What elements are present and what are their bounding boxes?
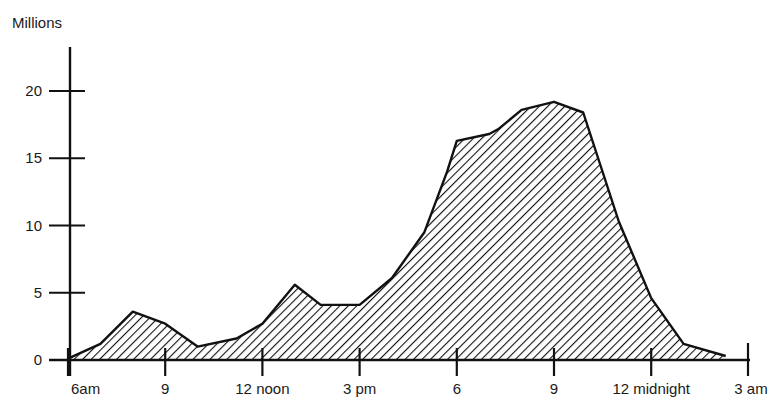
y-tick-label: 15 [25,149,42,166]
x-tick-label: 12 midnight [612,380,690,397]
y-ticks: 05101520 [25,82,85,368]
area-layer [68,102,726,360]
area-fill [68,102,726,360]
x-tick-label: 9 [550,380,558,397]
x-tick-label: 6 [453,380,461,397]
y-axis-title: Millions [12,14,62,31]
x-tick-label: 12 noon [235,380,289,397]
y-tick-label: 20 [25,82,42,99]
x-tick-label: 9 [161,380,169,397]
x-tick-label: 3 am [734,380,767,397]
area-chart: Millions 05101520 6am912 noon3 pm6912 mi… [0,0,784,419]
y-tick-label: 0 [34,351,42,368]
y-tick-label: 10 [25,217,42,234]
x-tick-label: 6am [71,380,100,397]
y-tick-label: 5 [34,284,42,301]
x-tick-label: 3 pm [343,380,376,397]
